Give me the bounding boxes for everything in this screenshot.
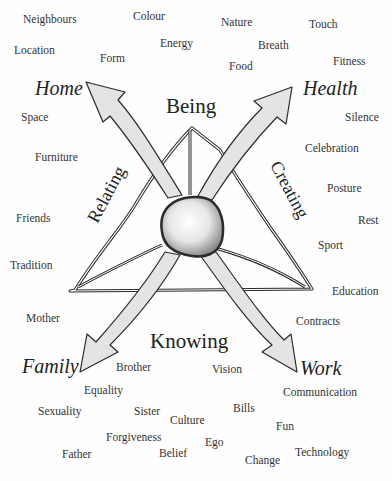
word-vision: Vision	[212, 364, 242, 376]
word-culture: Culture	[170, 415, 205, 427]
word-silence: Silence	[345, 112, 379, 124]
word-forgiveness: Forgiveness	[106, 432, 161, 444]
word-sister: Sister	[134, 406, 160, 418]
word-nature: Nature	[221, 17, 252, 29]
word-bills: Bills	[233, 403, 255, 415]
word-contracts: Contracts	[296, 316, 340, 328]
word-form: Form	[100, 53, 125, 65]
word-ego: Ego	[205, 437, 224, 449]
area-label-health: Health	[303, 78, 357, 98]
word-furniture: Furniture	[35, 152, 78, 164]
word-mother: Mother	[26, 313, 60, 325]
area-label-work: Work	[300, 358, 341, 378]
word-technology: Technology	[295, 447, 349, 459]
word-sexuality: Sexuality	[38, 406, 81, 418]
word-celebration: Celebration	[305, 143, 359, 155]
word-communication: Communication	[283, 387, 357, 399]
word-fitness: Fitness	[333, 56, 366, 68]
word-father: Father	[62, 449, 91, 461]
word-change: Change	[245, 455, 280, 467]
word-brother: Brother	[116, 362, 151, 374]
arrow-family	[80, 252, 180, 372]
word-neighbours: Neighbours	[23, 14, 77, 26]
word-tradition: Tradition	[10, 260, 52, 272]
word-food: Food	[229, 61, 253, 73]
word-breath: Breath	[258, 40, 289, 52]
word-posture: Posture	[327, 183, 362, 195]
area-label-home: Home	[35, 78, 83, 98]
word-rest: Rest	[358, 215, 378, 227]
mode-label-being: Being	[166, 96, 216, 117]
word-space: Space	[21, 112, 48, 124]
area-label-family: Family	[22, 356, 79, 376]
word-energy: Energy	[160, 38, 193, 50]
word-friends: Friends	[16, 213, 51, 225]
word-touch: Touch	[309, 19, 338, 31]
word-equality: Equality	[84, 385, 123, 397]
diagram-canvas: Being Relating Creating Knowing Home Hea…	[0, 0, 392, 481]
word-belief: Belief	[159, 448, 187, 460]
word-fun: Fun	[276, 421, 294, 433]
word-colour: Colour	[133, 11, 165, 23]
word-education: Education	[332, 286, 379, 298]
arrow-work	[200, 252, 297, 372]
center-sphere	[161, 197, 223, 256]
mode-label-knowing: Knowing	[150, 331, 228, 352]
word-location: Location	[14, 45, 55, 57]
word-sport: Sport	[318, 240, 343, 252]
